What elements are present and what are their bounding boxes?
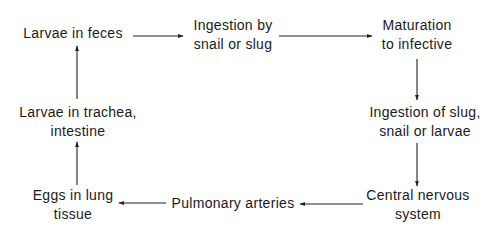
node-maturation: Maturation to infective xyxy=(372,16,462,54)
node-label-line: tissue xyxy=(28,205,118,224)
node-label-line: system xyxy=(362,205,474,224)
node-larvae-in-feces: Larvae in feces xyxy=(18,24,128,43)
node-label-line: snail or slug xyxy=(186,35,280,54)
node-ingestion-by-snail: Ingestion by snail or slug xyxy=(186,16,280,54)
node-larvae-in-trachea: Larvae in trachea, intestine xyxy=(14,103,142,141)
node-pulmonary-arteries: Pulmonary arteries xyxy=(168,194,298,213)
node-central-nervous-system: Central nervous system xyxy=(362,186,474,224)
node-eggs-in-lung-tissue: Eggs in lung tissue xyxy=(28,186,118,224)
node-label-line: Maturation xyxy=(372,16,462,35)
node-label-line: Ingestion of slug, xyxy=(362,103,488,122)
node-label-line: Larvae in feces xyxy=(18,24,128,43)
node-label-line: intestine xyxy=(14,122,142,141)
node-label-line: to infective xyxy=(372,35,462,54)
node-label-line: Pulmonary arteries xyxy=(168,194,298,213)
node-ingestion-of-slug: Ingestion of slug, snail or larvae xyxy=(362,103,488,141)
node-label-line: Central nervous xyxy=(362,186,474,205)
node-label-line: Ingestion by xyxy=(186,16,280,35)
life-cycle-diagram: Larvae in feces Ingestion by snail or sl… xyxy=(0,0,488,229)
node-label-line: snail or larvae xyxy=(362,122,488,141)
node-label-line: Larvae in trachea, xyxy=(14,103,142,122)
node-label-line: Eggs in lung xyxy=(28,186,118,205)
